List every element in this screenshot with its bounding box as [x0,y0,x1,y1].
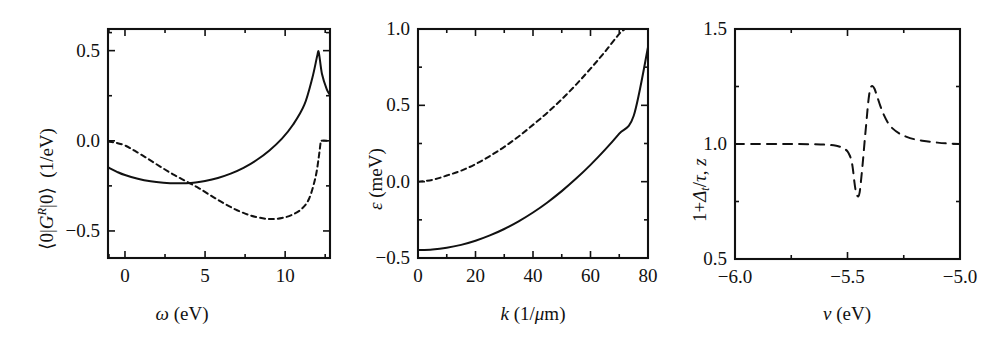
panel-c-x-tick-label: −6.0 [718,267,752,286]
panel-c-x-tick-label: −5.5 [830,267,864,286]
panel-a-x-axis-label: ω (eV) [156,304,209,323]
panel-a-series-real-part-solid [108,51,330,183]
panel-a-axes [108,29,330,258]
panel-a-y-tick-label: 0.0 [76,131,100,150]
panel-b-x-tick-label: 40 [524,266,543,285]
panel-green-function: ⟨0|GR|0⟩ (1/eV) ω (eV) −0.50.00.50510 [0,0,340,342]
panel-b-x-tick-label: 20 [466,266,485,285]
panel-c-y-tick-label: 1.5 [703,19,727,38]
panel-a-y-tick-label: −0.5 [66,221,100,240]
panel-b-y-tick-label: 0.0 [386,172,410,191]
panel-a-frame [108,29,330,258]
panel-b-series-upper-band-dashed [418,29,625,182]
panel-c-x-axis-label: v (eV) [823,304,871,323]
panel-b-y-tick-label: 0.5 [386,95,410,114]
panel-b-y-tick-label: −0.5 [376,248,410,267]
panel-b-y-tick-label: 1.0 [386,19,410,38]
panel-c-y-tick-label: 1.0 [703,134,727,153]
panel-c-x-tick-label: −5.0 [943,267,977,286]
panel-b-frame [418,29,648,258]
panel-b-axes [418,29,648,258]
panel-b-x-axis-label: k (1/μm) [501,304,566,323]
panel-c-curves [735,86,960,196]
panel-a-x-tick-label: 0 [120,266,130,285]
panel-b-series-lower-band-solid [418,47,648,250]
panel-a-x-tick-label: 5 [200,266,210,285]
panel-a-curves [108,51,330,219]
panel-a-x-tick-label: 10 [276,266,295,285]
panel-b-x-tick-label: 80 [639,266,658,285]
panel-c-series-resonance-dashed [735,86,960,196]
panel-b-x-tick-label: 60 [581,266,600,285]
panel-b-x-tick-label: 0 [413,266,423,285]
panel-a-y-axis-label: ⟨0|GR|0⟩ (1/eV) [36,128,56,250]
panel-dispersion: ε (meV) k (1/μm) −0.50.00.51.0020406080 [330,0,670,342]
panel-resonance: 1+Δt/τ, z v (eV) 0.51.01.5−6.0−5.5−5.0 [660,0,996,342]
panel-a-y-tick-label: 0.5 [76,41,100,60]
figure-root: ⟨0|GR|0⟩ (1/eV) ω (eV) −0.50.00.50510 ε … [0,0,996,342]
panel-b-curves [418,29,648,250]
panel-c-y-axis-label: 1+Δt/τ, z [690,158,712,222]
panel-b-y-axis-label: ε (meV) [366,148,385,210]
